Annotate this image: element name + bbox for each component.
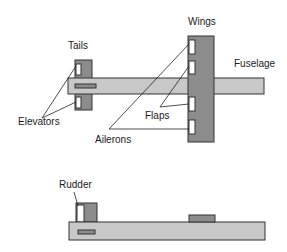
elevator-lower <box>76 97 81 108</box>
aileron-upper <box>189 40 195 54</box>
label-wings: Wings <box>188 17 216 27</box>
fuselage-slot <box>75 84 96 88</box>
flap-upper <box>189 61 195 74</box>
elevator-upper <box>76 64 81 75</box>
label-rudder: Rudder <box>59 180 92 190</box>
fuselage-side <box>69 222 265 240</box>
fuselage-top <box>68 78 264 94</box>
label-tails: Tails <box>68 41 88 51</box>
leader-flaps-2 <box>160 104 189 107</box>
label-ailerons: Ailerons <box>95 135 131 145</box>
aileron-lower <box>189 120 195 134</box>
wing-side-profile <box>189 215 215 222</box>
rudder-surface <box>77 205 84 222</box>
label-fuselage: Fuselage <box>234 59 275 69</box>
flap-lower <box>189 97 195 111</box>
label-flaps: Flaps <box>145 111 169 121</box>
fuselage-side-slot <box>78 230 95 234</box>
label-elevators: Elevators <box>18 117 60 127</box>
